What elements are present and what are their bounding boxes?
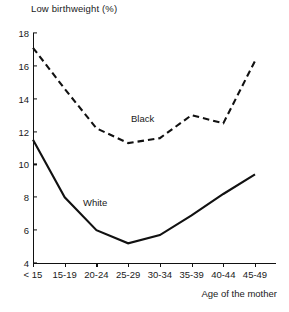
x-tick-mark — [128, 263, 129, 267]
x-tick-label: 20-24 — [84, 269, 108, 280]
y-tick-label: 16 — [18, 60, 33, 71]
x-tick-label: 30-34 — [148, 269, 172, 280]
x-tick-mark — [33, 263, 34, 267]
series-line-black — [33, 48, 255, 143]
x-tick-mark — [160, 263, 161, 267]
chart-container: Low birthweight (%) 4681012141618 < 1515… — [0, 0, 289, 312]
y-tick-label: 8 — [24, 192, 33, 203]
x-tick-mark — [255, 263, 256, 267]
x-axis-line — [33, 263, 276, 264]
x-tick-mark — [223, 263, 224, 267]
series-line-white — [33, 140, 255, 243]
x-axis-title: Age of the mother — [201, 288, 277, 299]
series-lines — [33, 33, 255, 263]
y-tick-label: 6 — [24, 225, 33, 236]
x-tick-mark — [96, 263, 97, 267]
x-tick-mark — [192, 263, 193, 267]
y-tick-label: 14 — [18, 93, 33, 104]
x-tick-label: 40-44 — [211, 269, 235, 280]
x-tick-label: < 15 — [24, 269, 43, 280]
chart-title: Low birthweight (%) — [31, 3, 117, 14]
y-tick-label: 10 — [18, 159, 33, 170]
plot-area — [33, 33, 255, 263]
y-tick-label: 12 — [18, 126, 33, 137]
series-label-white: White — [83, 197, 107, 208]
x-tick-label: 35-39 — [179, 269, 203, 280]
y-tick-label: 4 — [24, 258, 33, 269]
series-label-black: Black — [131, 113, 154, 124]
x-tick-mark — [65, 263, 66, 267]
x-tick-label: 45-49 — [243, 269, 267, 280]
x-tick-label: 25-29 — [116, 269, 140, 280]
y-tick-label: 18 — [18, 28, 33, 39]
x-tick-label: 15-19 — [53, 269, 77, 280]
